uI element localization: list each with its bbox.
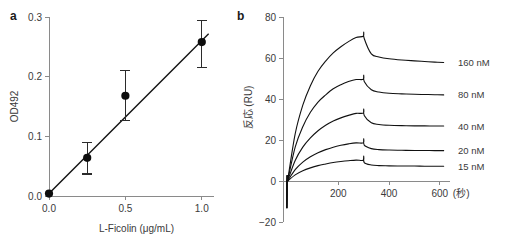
panel-b-plot: −20020406080200400600(秒)反応 (RU)160 nM80 … (235, 0, 520, 242)
panel-a-y-ticklabel: 0.2 (28, 71, 42, 82)
panel-a-data-point (83, 154, 91, 162)
panel-b-y-axis-label: 反応 (RU) (242, 86, 254, 130)
panel-b-y-ticklabel: −20 (259, 217, 276, 228)
panel-a-y-ticklabel: 0.0 (28, 191, 42, 202)
panel-b-series-labels: 160 nM80 nM40 nM20 nM15 nM (458, 57, 490, 172)
panel-b-series-label: 15 nM (458, 161, 484, 172)
panel-b-sensorgram-curve (287, 109, 444, 208)
panel-b-y-ticklabel: 80 (265, 12, 277, 23)
panel-a: a 0.00.10.20.30.00.51.0L-Ficolin (μg/mL)… (0, 0, 235, 242)
panel-a-y-ticklabel: 0.1 (28, 131, 42, 142)
panel-b-series-label: 80 nM (458, 89, 484, 100)
panel-b-series-label: 160 nM (458, 57, 490, 68)
panel-b-x-axis-unit-label: (秒) (453, 187, 470, 199)
panel-a-x-axis-label: L-Ficolin (μg/mL) (99, 223, 174, 234)
panel-b-y-ticklabel: 60 (265, 53, 277, 64)
panel-b-y-ticklabel: 0 (270, 176, 276, 187)
panel-a-y-axis-label: OD492 (9, 90, 20, 122)
panel-b: b −20020406080200400600(秒)反応 (RU)160 nM8… (235, 0, 520, 242)
panel-a-data-series (45, 21, 207, 198)
panel-a-data-point (45, 190, 53, 198)
panel-b-sensorgram-curve (287, 139, 444, 208)
panel-a-plot: 0.00.10.20.30.00.51.0L-Ficolin (μg/mL)OD… (0, 0, 235, 242)
panel-b-sensorgram-curve (287, 156, 444, 207)
panel-a-y-ticklabel: 0.3 (28, 12, 42, 23)
panel-a-x-ticklabel: 0.5 (118, 203, 132, 214)
panel-b-sensorgram-curve (287, 75, 444, 207)
panel-b-y-ticklabel: 40 (265, 94, 277, 105)
panel-b-x-ticklabel: 200 (330, 188, 347, 199)
panel-b-series-label: 40 nM (458, 121, 484, 132)
panel-a-x-ticklabel: 1.0 (195, 203, 209, 214)
panel-b-series-label: 20 nM (458, 145, 484, 156)
panel-b-x-ticklabel: 600 (432, 188, 449, 199)
panel-a-data-point (198, 38, 206, 46)
panel-a-data-point (121, 92, 129, 100)
panel-b-x-ticklabel: 400 (381, 188, 398, 199)
panel-a-regression-line (49, 34, 209, 194)
panel-b-y-ticklabel: 20 (265, 135, 277, 146)
panel-a-x-ticklabel: 0.0 (42, 203, 56, 214)
figure-container: a 0.00.10.20.30.00.51.0L-Ficolin (μg/mL)… (0, 0, 520, 242)
